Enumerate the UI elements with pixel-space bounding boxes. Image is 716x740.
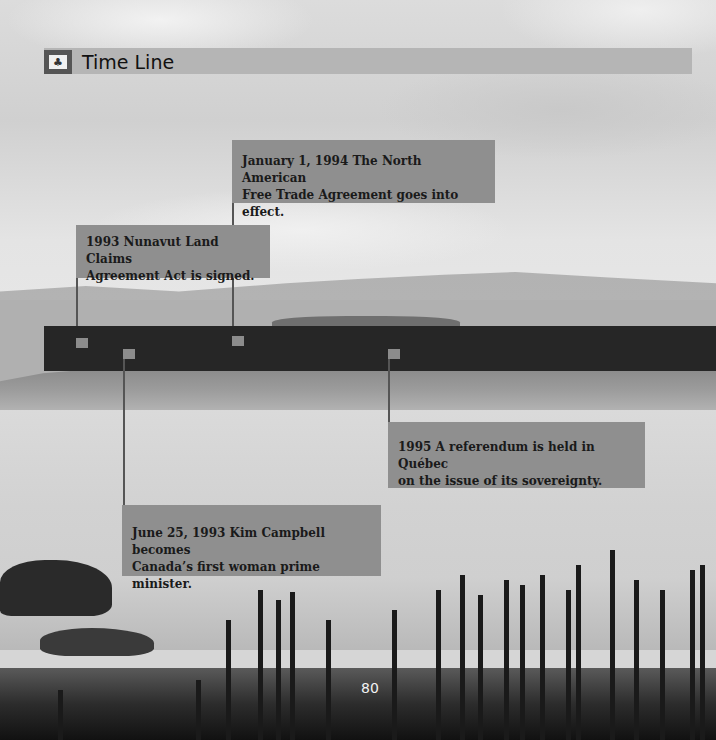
event-text-line: January 1, 1994 The North American <box>242 153 485 187</box>
wooden-stake <box>226 620 231 740</box>
event-card-kim-campbell: June 25, 1993 Kim Campbell becomes Canad… <box>122 505 381 576</box>
wooden-stake <box>460 575 465 740</box>
timeline-marker-quebec <box>388 349 400 359</box>
event-card-quebec-referendum: 1995 A referendum is held in Québec on t… <box>388 422 645 488</box>
page-number: 80 <box>361 680 379 696</box>
timeline-bar <box>44 326 716 371</box>
wooden-stake <box>258 590 263 740</box>
wooden-stake <box>566 590 571 740</box>
wooden-stake <box>540 575 545 740</box>
section-title: Time Line <box>82 49 174 75</box>
event-text-line: on the issue of its sovereignty. <box>398 473 635 490</box>
wooden-stake <box>504 580 509 740</box>
connector-line-quebec <box>388 359 390 422</box>
event-text-line: Free Trade Agreement goes into effect. <box>242 187 485 221</box>
wooden-stake <box>290 592 295 740</box>
wooden-stake <box>436 590 441 740</box>
wooden-stake <box>326 620 331 740</box>
wooden-stake <box>520 585 525 740</box>
event-card-nunavut: 1993 Nunavut Land Claims Agreement Act i… <box>76 225 270 278</box>
event-text-line: 1995 A referendum is held in Québec <box>398 439 635 473</box>
event-text-line: 1993 Nunavut Land Claims <box>86 234 260 268</box>
wooden-stake <box>610 550 615 740</box>
rock <box>0 560 112 616</box>
event-card-nafta: January 1, 1994 The North American Free … <box>232 140 495 203</box>
wooden-stake <box>196 680 201 740</box>
event-text-line: Canada’s first woman prime minister. <box>132 559 371 593</box>
event-text-line: Agreement Act is signed. <box>86 268 260 285</box>
foreground-ground <box>0 668 716 740</box>
maple-leaf-icon: ♣ <box>44 50 72 74</box>
connector-line-campbell <box>123 359 125 505</box>
wooden-stake <box>276 600 281 740</box>
wooden-stake <box>700 565 705 740</box>
wooden-stake <box>576 565 581 740</box>
wooden-stake <box>634 580 639 740</box>
maple-leaf-glyph: ♣ <box>49 55 67 69</box>
shoreline <box>0 368 716 412</box>
wooden-stake <box>58 690 63 740</box>
timeline-marker-campbell <box>123 349 135 359</box>
wooden-stake <box>660 590 665 740</box>
rock <box>40 628 154 656</box>
timeline-marker-nafta <box>232 336 244 346</box>
wooden-stake <box>690 570 695 740</box>
wooden-stake <box>392 610 397 740</box>
timeline-marker-nunavut <box>76 338 88 348</box>
event-text-line: June 25, 1993 Kim Campbell becomes <box>132 525 371 559</box>
wooden-stake <box>478 595 483 740</box>
